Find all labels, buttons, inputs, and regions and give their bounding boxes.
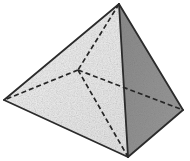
face-front-left: [4, 4, 128, 157]
face-front-right: [119, 4, 183, 157]
figure-container: [0, 0, 190, 161]
square-pyramid-diagram: [0, 0, 190, 161]
